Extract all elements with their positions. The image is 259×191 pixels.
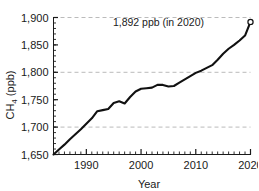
- y-tick-label: 1,900: [21, 12, 49, 24]
- gridlines: [54, 18, 251, 128]
- annotation-group: 1,892 ppb (in 2020): [113, 16, 204, 28]
- y-axis-title-unit: (ppb): [4, 70, 16, 99]
- ch4-data-line: [54, 22, 251, 155]
- x-tick-label: 2010: [184, 159, 208, 171]
- data-annotation: 1,892 ppb (in 2020): [113, 16, 204, 28]
- y-axis: 1,6501,7001,7501,8001,8501,900: [21, 12, 58, 161]
- x-tick-label: 2000: [129, 159, 153, 171]
- x-axis: 1990200020102020: [54, 149, 259, 171]
- y-axis-title-main: CH: [4, 104, 16, 120]
- y-tick-label: 1,650: [21, 149, 49, 161]
- y-tick-label: 1,700: [21, 121, 49, 133]
- svg-text:CH4 (ppb): CH4 (ppb): [4, 70, 19, 119]
- y-tick-label: 1,850: [21, 39, 49, 51]
- x-axis-title: Year: [138, 178, 161, 190]
- y-tick-label: 1,750: [21, 94, 49, 106]
- y-axis-title: CH4 (ppb): [4, 70, 19, 119]
- ch4-line-chart: 1,6501,7001,7501,8001,8501,900 199020002…: [0, 0, 258, 191]
- y-tick-label: 1,800: [21, 66, 49, 78]
- endpoint-marker: [248, 19, 253, 24]
- y-axis-tick-labels: 1,6501,7001,7501,8001,8501,900: [21, 12, 49, 161]
- x-tick-label: 1990: [74, 159, 98, 171]
- y-axis-major-ticks: [54, 18, 59, 155]
- chart-figure: 1,6501,7001,7501,8001,8501,900 199020002…: [0, 0, 258, 191]
- x-tick-label: 2020: [238, 159, 258, 171]
- x-axis-tick-labels: 1990200020102020: [74, 159, 258, 171]
